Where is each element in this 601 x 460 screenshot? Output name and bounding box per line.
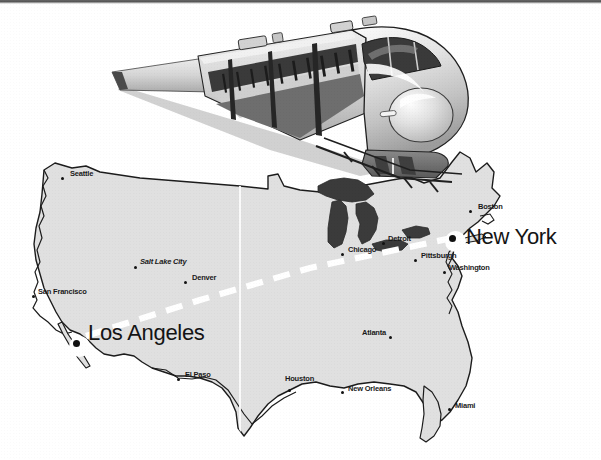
city-dot-el-paso[interactable] <box>177 378 180 381</box>
city-dot-san-francisco[interactable] <box>32 295 35 298</box>
city-label-los-angeles[interactable]: Los Angeles <box>88 320 205 346</box>
figure-canvas: SeattleSan FranciscoSalt Lake CityDenver… <box>0 0 601 460</box>
city-dot-new-york[interactable] <box>449 235 456 242</box>
city-label-miami[interactable]: Miami <box>455 401 475 410</box>
city-label-salt-lake-city[interactable]: Salt Lake City <box>140 257 186 266</box>
city-dot-chicago[interactable] <box>341 253 344 256</box>
city-dot-los-angeles[interactable] <box>73 340 80 347</box>
city-label-pittsburgh[interactable]: Pittsburgh <box>421 251 457 260</box>
city-dot-washington[interactable] <box>443 271 446 274</box>
city-dot-miami[interactable] <box>448 408 451 411</box>
city-label-atlanta[interactable]: Atlanta <box>362 328 386 337</box>
city-label-boston[interactable]: Boston <box>478 202 503 211</box>
city-dot-boston[interactable] <box>469 210 472 213</box>
city-label-seattle[interactable]: Seattle <box>70 169 93 178</box>
city-labels-layer: SeattleSan FranciscoSalt Lake CityDenver… <box>0 0 601 460</box>
city-dot-new-orleans[interactable] <box>341 391 344 394</box>
city-dot-detroit[interactable] <box>382 242 385 245</box>
city-dot-salt-lake-city[interactable] <box>134 266 137 269</box>
city-label-washington[interactable]: Washington <box>449 263 490 272</box>
city-dot-halo-new-york <box>445 231 466 252</box>
city-label-houston[interactable]: Houston <box>285 374 314 383</box>
city-dot-houston[interactable] <box>288 389 291 392</box>
city-label-san-francisco[interactable]: San Francisco <box>38 287 87 296</box>
city-dot-denver[interactable] <box>184 281 187 284</box>
city-label-el-paso[interactable]: El Paso <box>185 370 211 379</box>
city-dot-atlanta[interactable] <box>389 336 392 339</box>
city-label-detroit[interactable]: Detroit <box>388 234 411 243</box>
city-label-new-orleans[interactable]: New Orleans <box>348 384 391 393</box>
city-label-chicago[interactable]: Chicago <box>348 245 376 254</box>
city-dot-halo-los-angeles <box>69 336 90 357</box>
city-dot-pittsburgh[interactable] <box>414 259 417 262</box>
city-label-new-york[interactable]: New York <box>466 224 557 250</box>
city-label-denver[interactable]: Denver <box>192 273 216 282</box>
city-dot-seattle[interactable] <box>61 177 64 180</box>
